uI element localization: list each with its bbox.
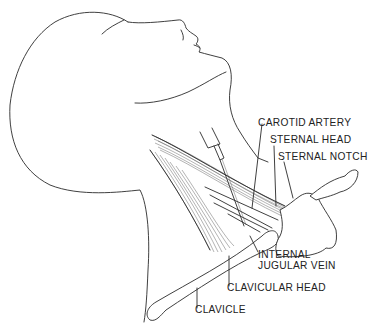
label-clavicular-head: CLAVICULAR HEAD	[227, 282, 326, 293]
internal-jugular-vein-shape	[210, 195, 272, 228]
jaw-line	[135, 72, 226, 103]
eyebrow-line	[102, 20, 124, 34]
label-internal-jugular-vein-line2: JUGULAR VEIN	[258, 260, 336, 271]
label-internal-jugular-vein-line1: INTERNAL	[258, 249, 311, 260]
label-clavicle: CLAVICLE	[195, 304, 246, 315]
label-sternal-head: STERNAL HEAD	[270, 134, 351, 145]
head-outline	[10, 12, 149, 322]
label-carotid-artery: CAROTID ARTERY	[258, 117, 351, 128]
leader-sternal-head	[274, 146, 276, 206]
leader-carotid-artery	[252, 124, 262, 208]
syringe-barrel	[200, 128, 220, 148]
sternum-manubrium	[276, 193, 337, 257]
eye-line	[181, 30, 183, 40]
face-profile	[128, 20, 268, 162]
label-sternal-notch: STERNAL NOTCH	[278, 151, 368, 162]
opposite-clavicle	[310, 170, 358, 200]
needle-2	[222, 159, 246, 225]
syringe-hub	[214, 144, 224, 160]
leader-sternal-notch	[284, 162, 293, 198]
